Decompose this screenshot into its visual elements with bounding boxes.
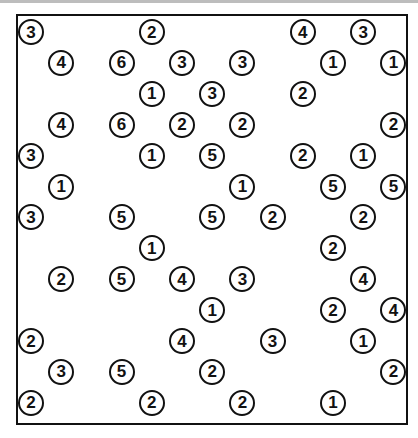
island[interactable]: 5 xyxy=(109,359,135,385)
window-top-edge xyxy=(0,0,418,3)
island[interactable]: 2 xyxy=(290,81,316,107)
island[interactable]: 5 xyxy=(109,204,135,230)
island[interactable]: 5 xyxy=(380,174,406,200)
island[interactable]: 3 xyxy=(199,81,225,107)
island[interactable]: 2 xyxy=(380,112,406,138)
island[interactable]: 2 xyxy=(229,112,255,138)
island[interactable]: 3 xyxy=(48,359,74,385)
island[interactable]: 4 xyxy=(290,19,316,45)
island[interactable]: 1 xyxy=(350,143,376,169)
island[interactable]: 2 xyxy=(199,359,225,385)
island[interactable]: 2 xyxy=(18,390,44,416)
island[interactable]: 1 xyxy=(139,143,165,169)
island[interactable]: 3 xyxy=(18,19,44,45)
island[interactable]: 4 xyxy=(48,112,74,138)
island[interactable]: 1 xyxy=(139,81,165,107)
island[interactable]: 1 xyxy=(350,328,376,354)
island[interactable]: 1 xyxy=(139,235,165,261)
island[interactable]: 1 xyxy=(48,174,74,200)
island[interactable]: 3 xyxy=(169,50,195,76)
island[interactable]: 3 xyxy=(18,143,44,169)
island[interactable]: 5 xyxy=(320,174,346,200)
island[interactable]: 1 xyxy=(229,174,255,200)
island[interactable]: 2 xyxy=(18,328,44,354)
island[interactable]: 4 xyxy=(169,328,195,354)
island[interactable]: 1 xyxy=(320,50,346,76)
island[interactable]: 2 xyxy=(229,390,255,416)
island[interactable]: 2 xyxy=(139,390,165,416)
island[interactable]: 3 xyxy=(260,328,286,354)
island[interactable]: 4 xyxy=(48,50,74,76)
island[interactable]: 4 xyxy=(169,266,195,292)
island[interactable]: 2 xyxy=(169,112,195,138)
island[interactable]: 2 xyxy=(260,204,286,230)
island[interactable]: 5 xyxy=(109,266,135,292)
island[interactable]: 2 xyxy=(290,143,316,169)
island[interactable]: 3 xyxy=(350,19,376,45)
island[interactable]: 2 xyxy=(139,19,165,45)
island[interactable]: 5 xyxy=(199,143,225,169)
island[interactable]: 6 xyxy=(109,112,135,138)
island[interactable]: 6 xyxy=(109,50,135,76)
island[interactable]: 2 xyxy=(320,297,346,323)
island[interactable]: 1 xyxy=(320,390,346,416)
